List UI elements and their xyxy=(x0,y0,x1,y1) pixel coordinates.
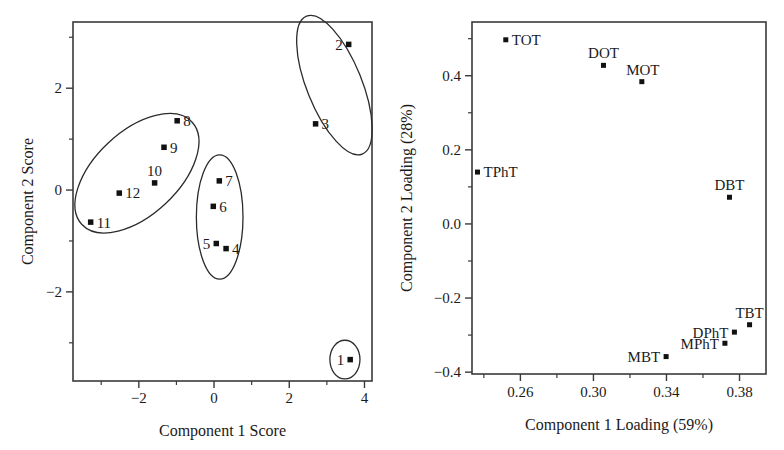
x-tick-label: 0.26 xyxy=(507,384,534,400)
point-marker xyxy=(475,170,480,175)
x-tick-label: 2 xyxy=(286,390,294,406)
point-marker xyxy=(214,241,220,247)
y-tick-label: −2 xyxy=(46,284,62,300)
point-marker xyxy=(211,204,217,210)
point-label: 5 xyxy=(203,236,211,252)
x-tick-label: 0.38 xyxy=(726,384,752,400)
point-label: MOT xyxy=(626,62,659,78)
loadings-plot: 0.260.300.340.38−0.4−0.20.00.20.4TOTDOTM… xyxy=(390,0,784,450)
point-marker xyxy=(174,118,180,124)
data-point: 2 xyxy=(335,37,351,53)
pca-figure: −2024−202123456789101112Component 1 Scor… xyxy=(0,0,784,450)
point-label: 12 xyxy=(125,185,140,201)
data-point: TOT xyxy=(503,32,540,48)
y-tick-label: 0.0 xyxy=(442,216,461,232)
point-marker xyxy=(639,79,644,84)
y-axis-title: Component 2 Score xyxy=(19,138,37,265)
y-tick-label: −0.4 xyxy=(434,364,462,380)
data-point: TPhT xyxy=(475,164,518,180)
point-label: 1 xyxy=(337,352,345,368)
point-label: 7 xyxy=(225,173,233,189)
data-point: 8 xyxy=(174,113,190,129)
data-point: 4 xyxy=(223,241,240,257)
x-tick-label: −2 xyxy=(131,390,147,406)
point-marker xyxy=(217,178,223,184)
loadings-panel: 0.260.300.340.38−0.4−0.20.00.20.4TOTDOTM… xyxy=(390,0,784,450)
data-point: 7 xyxy=(217,173,234,189)
point-marker xyxy=(732,330,737,335)
y-tick-label: 0.4 xyxy=(442,68,461,84)
point-marker xyxy=(346,42,352,48)
y-tick-label: 0.2 xyxy=(442,142,461,158)
plot-frame xyxy=(472,22,766,374)
scores-panel: −2024−202123456789101112Component 1 Scor… xyxy=(0,0,400,450)
point-marker xyxy=(347,357,353,363)
x-tick-label: 0.30 xyxy=(580,384,606,400)
y-tick-label: 0 xyxy=(55,182,63,198)
point-marker xyxy=(88,219,94,225)
point-label: 6 xyxy=(219,199,227,215)
y-axis-title: Component 2 Loading (28%) xyxy=(398,104,416,292)
point-marker xyxy=(503,37,508,42)
point-label: 8 xyxy=(183,113,191,129)
y-tick-label: −0.2 xyxy=(434,290,461,306)
point-label: 11 xyxy=(97,215,111,231)
point-marker xyxy=(601,63,606,68)
cluster-ellipse xyxy=(196,155,243,279)
point-marker xyxy=(664,354,669,359)
x-tick-label: 0 xyxy=(210,390,218,406)
point-label: 3 xyxy=(322,116,330,132)
x-tick-label: 4 xyxy=(361,390,369,406)
point-label: DOT xyxy=(588,45,619,61)
x-axis-title: Component 1 Score xyxy=(159,422,286,440)
point-label: 10 xyxy=(147,163,162,179)
point-marker xyxy=(747,322,752,327)
data-point: 12 xyxy=(117,185,141,201)
data-point: 9 xyxy=(161,140,177,156)
point-marker xyxy=(727,195,732,200)
point-label: 9 xyxy=(170,140,178,156)
scores-plot: −2024−202123456789101112Component 1 Scor… xyxy=(0,0,400,450)
data-point: 3 xyxy=(313,116,329,132)
point-marker xyxy=(152,180,158,186)
data-point: 6 xyxy=(211,199,228,215)
data-point: DBT xyxy=(714,177,744,200)
point-marker xyxy=(117,190,123,196)
point-marker xyxy=(313,121,319,127)
point-label: MBT xyxy=(628,349,661,365)
data-point: 1 xyxy=(337,352,353,368)
data-point: DOT xyxy=(588,45,619,68)
data-point: 11 xyxy=(88,215,111,231)
data-point: 10 xyxy=(147,163,162,186)
data-point: 5 xyxy=(203,236,219,252)
point-marker xyxy=(161,145,167,151)
cluster-ellipse xyxy=(53,91,220,255)
point-label: MPhT xyxy=(681,336,719,352)
data-point: MOT xyxy=(626,62,659,85)
x-axis-title: Component 1 Loading (59%) xyxy=(525,416,713,434)
data-point: MBT xyxy=(628,349,669,365)
y-tick-label: 2 xyxy=(55,80,63,96)
point-label: TBT xyxy=(735,305,763,321)
point-label: DBT xyxy=(714,177,744,193)
point-label: 2 xyxy=(335,37,343,53)
point-marker xyxy=(722,341,727,346)
point-label: TOT xyxy=(512,32,541,48)
data-point: TBT xyxy=(735,305,763,328)
x-tick-label: 0.34 xyxy=(653,384,680,400)
cluster-ellipse xyxy=(330,340,360,379)
point-label: TPhT xyxy=(483,164,517,180)
point-label: 4 xyxy=(232,241,240,257)
point-marker xyxy=(223,246,229,252)
